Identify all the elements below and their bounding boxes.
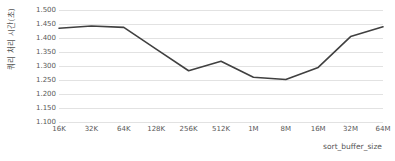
y-axis-tick-label: 1.400 xyxy=(22,35,56,42)
y-axis-tick-label: 1.200 xyxy=(22,91,56,98)
y-axis-title: 쿼리 처리 시간(초) xyxy=(5,0,19,89)
y-axis-tick-label: 1.500 xyxy=(22,7,56,14)
plot-area xyxy=(59,10,383,122)
y-axis-tick-label: 1.150 xyxy=(22,105,56,112)
x-axis-title: sort_buffer_size xyxy=(323,142,382,152)
series-line-query-time xyxy=(59,26,383,79)
x-axis-tick-label: 64M xyxy=(363,124,395,134)
y-axis-tick-label: 1.350 xyxy=(22,49,56,56)
series-line-layer xyxy=(59,10,383,122)
y-axis-tick-label: 1.250 xyxy=(22,77,56,84)
x-axis-tick-labels: 16K32K64K128K256K512K1M8M16M32M64M xyxy=(59,124,383,136)
gridline xyxy=(59,122,383,123)
y-axis-tick-labels: 1.5001.4501.4001.3501.3001.2501.2001.150… xyxy=(22,10,56,122)
y-axis-tick-label: 1.300 xyxy=(22,63,56,70)
y-axis-tick-label: 1.450 xyxy=(22,21,56,28)
